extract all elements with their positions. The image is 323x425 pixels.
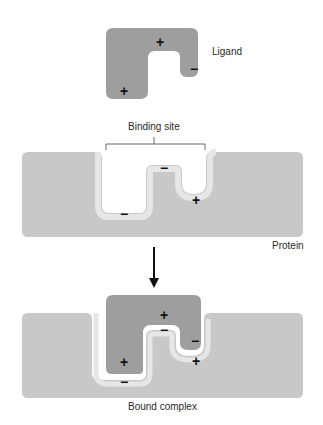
protein-free: − − + — [22, 152, 303, 237]
ligand-free: + + − — [106, 28, 198, 99]
complex-ligand-plus-bottom: + — [120, 354, 128, 370]
ligand-charge-plus-bottom: + — [120, 83, 128, 99]
ligand-charge-plus-top: + — [156, 34, 164, 50]
binding-site-label: Binding site — [128, 121, 180, 132]
arrow-down-icon — [149, 247, 159, 288]
diagram-canvas: + + − − − + + + − − − + — [0, 0, 323, 425]
site-charge-minus-bottom: − — [120, 206, 128, 222]
bound-complex-label: Bound complex — [128, 401, 197, 412]
complex-protein-minus-top: − — [160, 322, 168, 338]
complex-ligand-minus: − — [191, 333, 199, 349]
site-charge-plus: + — [192, 192, 200, 208]
binding-site-bracket — [106, 137, 205, 150]
ligand-label: Ligand — [212, 46, 242, 57]
ligand-charge-minus: − — [190, 61, 198, 77]
protein-label: Protein — [272, 240, 304, 251]
complex-protein-minus-bottom: − — [120, 374, 128, 390]
complex-protein-plus: + — [192, 353, 200, 369]
complex-ligand-plus-top: + — [160, 307, 168, 323]
site-charge-minus-top: − — [160, 160, 168, 176]
